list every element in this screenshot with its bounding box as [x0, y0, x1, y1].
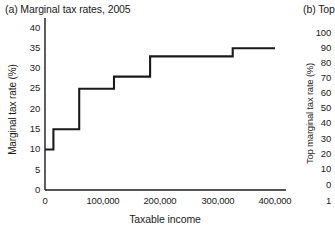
panel-b-ytick-40: 40 [307, 118, 331, 128]
panel-a-step-line [45, 48, 275, 149]
panel-b-ytick-20: 20 [307, 149, 331, 159]
panel-b-ytick-10: 10 [307, 164, 331, 174]
panel-b-ytick-70: 70 [307, 73, 331, 83]
panel-b-top-marginal-tax-rate: (b) Top Top marginal tax rate (%) 100 90… [295, 0, 335, 234]
panel-b-ytick-90: 90 [307, 43, 331, 53]
panel-b-ytick-60: 60 [307, 88, 331, 98]
panel-b-xtick-1: 1 [307, 196, 331, 206]
panel-b-title: (b) Top [303, 3, 335, 15]
panel-b-ytick-30: 30 [307, 134, 331, 144]
panel-a-marginal-tax-rates: (a) Marginal tax rates, 2005 Marginal ta… [0, 0, 295, 234]
panel-b-ytick-80: 80 [307, 58, 331, 68]
panel-b-ytick-100: 100 [307, 28, 331, 38]
figure: (a) Marginal tax rates, 2005 Marginal ta… [0, 0, 335, 234]
panel-a-plot-area [0, 0, 295, 234]
panel-b-ytick-50: 50 [307, 103, 331, 113]
panel-b-ytick-0: 0 [307, 180, 331, 190]
